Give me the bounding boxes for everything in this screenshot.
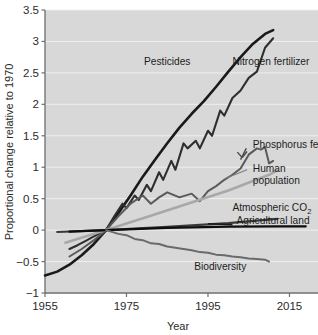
series-label-nitrogen-fertilizer: Nitrogen fertilizer xyxy=(232,56,310,67)
y-tick-label: 0.5 xyxy=(23,193,39,205)
y-tick-label: 1.5 xyxy=(23,130,39,142)
y-tick-label: 3 xyxy=(33,35,39,47)
x-tick-label: 1955 xyxy=(32,300,58,312)
y-tick-label: 2 xyxy=(33,98,39,110)
y-tick-label: 3.5 xyxy=(23,4,39,16)
y-tick-label: −0.5 xyxy=(16,256,39,268)
series-label-phosphorus-fertilizer: Phosphorus fertilizer xyxy=(253,139,318,150)
y-tick-label: 0 xyxy=(33,224,39,236)
proportional-change-line-chart: 3.532.521.510.50−0.5−1 1955197519952015 … xyxy=(0,0,318,335)
series-label-pesticides: Pesticides xyxy=(144,56,190,67)
y-tick-label: 2.5 xyxy=(23,67,39,79)
series-label-biodiversity: Biodiversity xyxy=(194,261,247,272)
series-label-agricultural-land: Agricultural land xyxy=(237,215,310,226)
x-tick-label: 2015 xyxy=(277,300,303,312)
agricultural-land-leader xyxy=(208,224,232,225)
x-tick-label: 1995 xyxy=(195,300,221,312)
x-tick-label: 1975 xyxy=(114,300,140,312)
y-tick-label: 1 xyxy=(33,161,39,173)
chart-figure: 3.532.521.510.50−0.5−1 1955197519952015 … xyxy=(0,0,318,335)
y-tick-label: −1 xyxy=(26,287,39,299)
x-axis-title: Year xyxy=(167,320,190,332)
y-axis-title: Proportional change relative to 1970 xyxy=(3,64,15,241)
